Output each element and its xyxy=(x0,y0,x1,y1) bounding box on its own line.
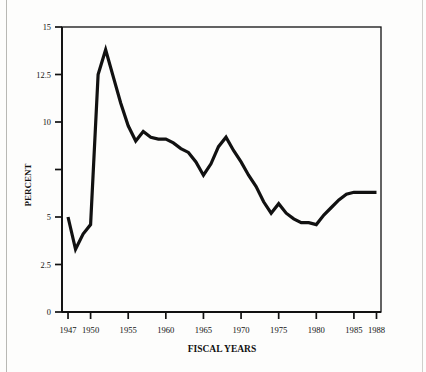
x-tick-label: 1975 xyxy=(270,325,287,335)
x-tick-label: 1985 xyxy=(345,325,362,335)
chart-canvas: 02.551012.515 19471950195519601965197019… xyxy=(0,0,426,372)
y-tick-label: 10 xyxy=(43,118,51,127)
y-tick-label: 2.5 xyxy=(41,261,51,270)
y-tick-label: 5 xyxy=(47,213,51,222)
y-tick-label: 15 xyxy=(43,23,51,32)
page-background: 02.551012.515 19471950195519601965197019… xyxy=(0,0,426,372)
y-tick-label: 0 xyxy=(47,308,51,317)
series-path xyxy=(68,50,376,250)
x-tick-label: 1965 xyxy=(195,325,212,335)
data-series-line xyxy=(68,50,376,250)
x-tick-label: 1960 xyxy=(157,325,174,335)
x-tick-label: 1947 xyxy=(59,325,77,335)
x-tick-label: 1970 xyxy=(232,325,249,335)
y-tick-label: 12.5 xyxy=(36,71,51,80)
x-tick-label: 1988 xyxy=(368,325,385,335)
x-tick-label: 1955 xyxy=(120,325,137,335)
line-chart-figure: 02.551012.515 19471950195519601965197019… xyxy=(0,0,426,372)
x-axis-title: FISCAL YEARS xyxy=(188,344,257,354)
y-axis-ticks: 02.551012.515 xyxy=(36,23,62,317)
x-tick-label: 1980 xyxy=(308,325,325,335)
x-axis-ticks: 1947195019551960196519701975198019851988 xyxy=(59,312,385,335)
x-tick-label: 1950 xyxy=(82,325,99,335)
y-axis-title: PERCENT xyxy=(23,163,33,206)
